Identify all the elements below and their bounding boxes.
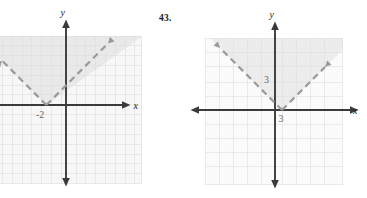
x-axis-arrow-left-icon [191, 106, 200, 114]
absolute-value-graph-right: x y 3 3 [190, 0, 367, 198]
y-axis-label: y [60, 7, 66, 18]
y-axis-arrow-up-icon [271, 22, 279, 31]
y-axis-arrow-up-icon [62, 20, 70, 29]
tick-label-y-3: 3 [264, 74, 269, 85]
tick-label-x-3: 3 [279, 113, 284, 124]
right-graph-canvas: x y 3 3 [190, 0, 367, 198]
x-axis-label: x [133, 100, 139, 111]
y-axis-label: y [269, 9, 275, 20]
exercise-number: 43. [159, 13, 171, 23]
tick-label-x-negative-2: -2 [36, 109, 44, 120]
left-graph-canvas: x y -2 [0, 0, 160, 198]
x-axis-label: x [352, 105, 358, 116]
absolute-value-graph-left: x y -2 [0, 0, 160, 198]
